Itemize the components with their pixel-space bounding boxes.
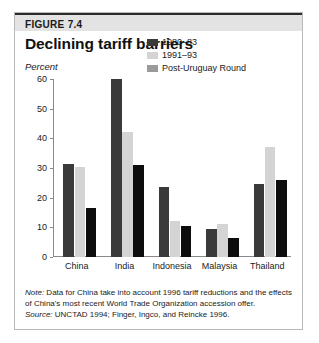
figure-panel: FIGURE 7.4 Declining tariff barriers Per… [14,12,303,330]
legend-item: Post-Uruguay Round [147,62,246,74]
bar [122,132,133,257]
x-axis-category-label: Thailand [243,261,291,271]
y-axis-tick-mark [50,198,53,199]
bar [181,226,192,257]
source-text: UNCTAD 1994; Finger, Ingco, and Reincke … [53,310,230,319]
bar-group [254,79,287,257]
bar [133,165,144,257]
chart-legend: 1980–831991–93Post-Uruguay Round [147,36,246,75]
bar [254,184,265,257]
y-axis-tick-mark [50,227,53,228]
y-axis-tick-label: 40 [27,133,47,143]
bar [159,187,170,257]
y-axis-tick-mark [50,168,53,169]
y-axis-tick-label: 0 [27,252,47,262]
y-axis-tick-mark [50,109,53,110]
x-axis-category-label: Indonesia [148,261,196,271]
legend-label: Post-Uruguay Round [162,63,246,73]
bar-group [111,79,144,257]
y-axis-tick-mark [50,79,53,80]
y-axis-tick-label: 50 [27,104,47,114]
y-axis-line [53,79,54,257]
chart-plot-area: 0102030405060ChinaIndiaIndonesiaMalaysia… [53,79,291,257]
bar [206,229,217,257]
x-axis-category-label: Malaysia [196,261,244,271]
figure-note: Note: Data for China take into account 1… [25,288,294,309]
legend-swatch [147,65,158,72]
figure-number: FIGURE 7.4 [25,19,82,30]
y-axis-tick-mark [50,138,53,139]
figure-footnotes: Note: Data for China take into account 1… [25,288,294,321]
bar [217,224,228,257]
bar-group [206,79,239,257]
legend-swatch [147,39,158,46]
y-axis-unit-label: Percent [25,61,58,72]
bar [276,180,287,257]
note-lead: Note: [25,288,44,297]
y-axis-tick-mark [50,257,53,258]
legend-item: 1991–93 [147,49,246,61]
legend-item: 1980–83 [147,36,246,48]
bar [170,221,181,257]
bar [86,208,97,257]
bar [228,238,239,257]
figure-source: Source: UNCTAD 1994; Finger, Ingco, and … [25,310,294,321]
legend-label: 1980–83 [162,37,197,47]
bar-group [63,79,96,257]
bar [75,167,86,257]
x-axis-category-label: India [101,261,149,271]
bar [111,79,122,257]
bar-group [159,79,192,257]
source-lead: Source: [25,310,53,319]
y-axis-tick-label: 60 [27,74,47,84]
y-axis-tick-label: 30 [27,163,47,173]
y-axis-tick-label: 20 [27,193,47,203]
bar [265,147,276,257]
y-axis-tick-label: 10 [27,222,47,232]
note-text: Data for China take into account 1996 ta… [25,288,292,308]
figure-header-band: FIGURE 7.4 [15,13,302,31]
legend-label: 1991–93 [162,50,197,60]
bar [63,164,74,257]
x-axis-category-label: China [53,261,101,271]
legend-swatch [147,52,158,59]
